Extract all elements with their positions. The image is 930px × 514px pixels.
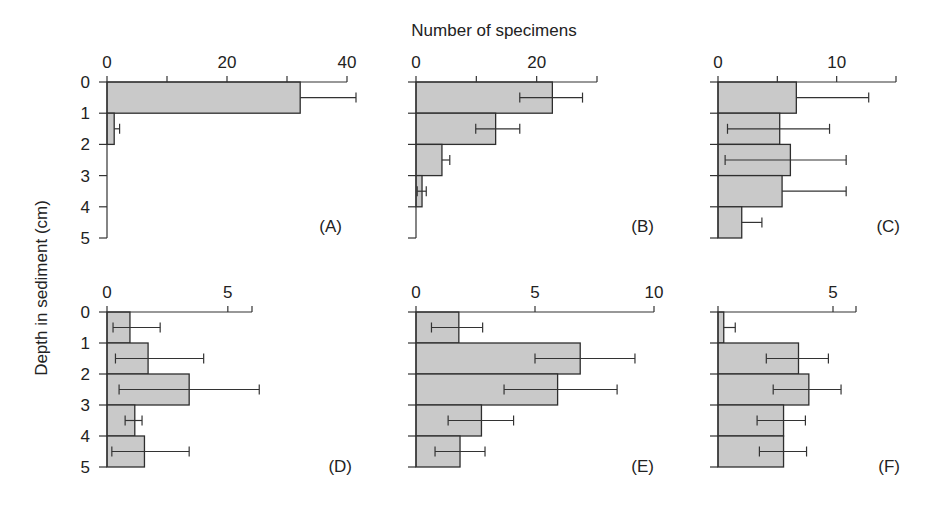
panel-label: (D) xyxy=(328,457,352,476)
depth-tick-label: 2 xyxy=(81,365,90,384)
x-tick-label: 5 xyxy=(223,283,232,302)
panel-b: 020(B) xyxy=(408,53,654,238)
x-tick-label: 40 xyxy=(338,53,357,72)
x-axis-title: Number of specimens xyxy=(411,21,576,40)
depth-tick-label: 4 xyxy=(81,198,90,217)
bar-depth-1-2 xyxy=(107,113,114,144)
x-tick-label: 0 xyxy=(411,283,420,302)
panel-label: (E) xyxy=(631,457,654,476)
panel-f: 5(F) xyxy=(710,283,900,476)
x-tick-label: 0 xyxy=(102,283,111,302)
x-tick-label: 0 xyxy=(713,53,722,72)
depth-tick-label: 5 xyxy=(81,229,90,248)
error-bar xyxy=(114,124,119,134)
depth-tick-label: 0 xyxy=(81,303,90,322)
depth-tick-label: 3 xyxy=(81,396,90,415)
panel-d: 05012345(D) xyxy=(81,283,352,477)
bar-depth-0-1 xyxy=(718,82,796,113)
depth-tick-label: 1 xyxy=(81,104,90,123)
bar-depth-2-3 xyxy=(416,144,442,175)
error-bar xyxy=(782,186,846,196)
depth-tick-label: 3 xyxy=(81,167,90,186)
x-tick-label: 5 xyxy=(530,283,539,302)
y-axis-title: Depth in sediment (cm) xyxy=(32,200,51,376)
depth-tick-label: 2 xyxy=(81,135,90,154)
error-bar xyxy=(300,93,356,103)
x-tick-label: 0 xyxy=(102,53,111,72)
error-bar xyxy=(742,217,762,227)
error-bar xyxy=(442,155,450,165)
x-tick-label: 5 xyxy=(828,283,837,302)
panels-group: 02040012345(A)020(B)010(C)05012345(D)051… xyxy=(81,53,900,477)
bar-depth-0-1 xyxy=(107,82,300,113)
bar-depth-3-4 xyxy=(718,176,782,207)
panel-label: (A) xyxy=(319,217,342,236)
x-tick-label: 0 xyxy=(411,53,420,72)
depth-tick-label: 0 xyxy=(81,73,90,92)
specimen-depth-chart: Number of specimens Depth in sediment (c… xyxy=(0,0,930,514)
panel-label: (C) xyxy=(876,217,900,236)
error-bar xyxy=(796,93,868,103)
bar-depth-4-5 xyxy=(718,207,742,238)
panel-label: (F) xyxy=(878,457,900,476)
depth-tick-label: 4 xyxy=(81,427,90,446)
panel-c: 010(C) xyxy=(710,53,900,238)
x-tick-label: 10 xyxy=(645,283,664,302)
x-tick-label: 20 xyxy=(218,53,237,72)
error-bar xyxy=(724,323,736,333)
x-tick-label: 20 xyxy=(527,53,546,72)
x-tick-label: 10 xyxy=(827,53,846,72)
depth-tick-label: 1 xyxy=(81,334,90,353)
panel-e: 0510(E) xyxy=(408,283,663,476)
depth-tick-label: 5 xyxy=(81,458,90,477)
bar-depth-0-1 xyxy=(718,312,724,343)
panel-a: 02040012345(A) xyxy=(81,53,357,248)
panel-label: (B) xyxy=(631,217,654,236)
